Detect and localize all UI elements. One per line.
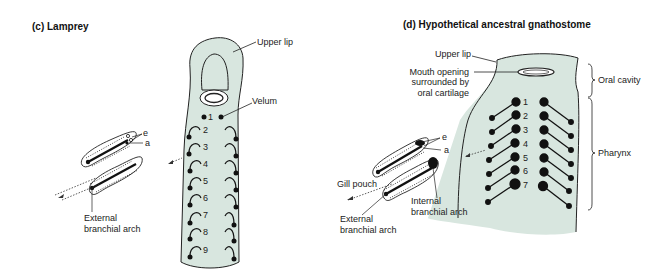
figure-canvas: (c) Lamprey Upper lip Velum 1 (0, 0, 671, 275)
panel-d-title: (d) Hypothetical ancestral gnathostome (403, 19, 591, 30)
internal-branchial-arch-label-2: branchial arch (411, 207, 468, 217)
svg-text:4: 4 (523, 139, 528, 149)
gnathostome-external-branchial-arch-label-2: branchial arch (340, 225, 397, 235)
mouth-opening-label-1: Mouth opening (409, 67, 469, 77)
lamprey-label-e: e (143, 128, 148, 138)
gill-number: 1 (208, 112, 213, 122)
lamprey-gill-detail (55, 132, 182, 212)
gnathostome-external-branchial-arch-label-1: External (340, 214, 373, 224)
lamprey-velum-opening (205, 94, 223, 103)
svg-text:5: 5 (203, 176, 208, 186)
mouth-opening-label-3: oral cartilage (417, 88, 469, 98)
svg-text:6: 6 (203, 193, 208, 203)
internal-branchial-arch-label-1: Internal (411, 196, 441, 206)
gnathostome-label-a: a (444, 145, 449, 155)
lamprey-external-branchial-arch-label-2: branchial arch (84, 224, 141, 234)
svg-text:5: 5 (523, 153, 528, 163)
panel-c-title: (c) Lamprey (32, 21, 89, 32)
pharynx-label: Pharynx (598, 148, 632, 158)
gnathostome-label-e: e (442, 132, 447, 142)
oral-cavity-brace (588, 64, 595, 97)
svg-text:3: 3 (203, 142, 208, 152)
oral-cavity-label: Oral cavity (598, 75, 641, 85)
panel-lamprey: (c) Lamprey Upper lip Velum 1 (32, 21, 293, 268)
svg-text:1: 1 (523, 97, 528, 107)
svg-text:2: 2 (523, 111, 528, 121)
svg-text:9: 9 (203, 245, 208, 255)
mouth-opening-label-2: surrounded by (411, 77, 469, 87)
svg-text:6: 6 (523, 166, 528, 176)
svg-text:7: 7 (523, 180, 528, 190)
lamprey-external-branchial-arch-label-1: External (84, 213, 117, 223)
panel-gnathostome: (d) Hypothetical ancestral gnathostome U… (337, 19, 641, 235)
lamprey-velum-label: Velum (252, 96, 277, 106)
svg-text:7: 7 (203, 210, 208, 220)
lamprey-label-a: a (145, 138, 150, 148)
svg-text:2: 2 (203, 125, 208, 135)
gill-pouch-label: Gill pouch (337, 179, 377, 189)
svg-text:8: 8 (203, 227, 208, 237)
gnathostome-upper-lip-label: Upper lip (435, 49, 471, 59)
lamprey-upper-lip-label: Upper lip (257, 37, 293, 47)
svg-text:3: 3 (523, 125, 528, 135)
pharynx-brace (588, 98, 595, 210)
svg-text:4: 4 (203, 159, 208, 169)
